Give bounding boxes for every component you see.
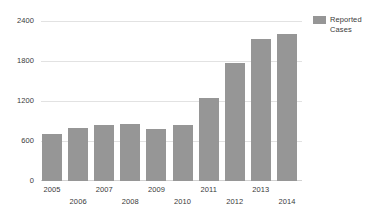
gridline-2400 bbox=[41, 21, 302, 22]
y-tick-label-1200: 1200 bbox=[0, 97, 34, 105]
bar-2009[interactable] bbox=[146, 129, 166, 181]
bar-2006[interactable] bbox=[68, 128, 88, 181]
x-tick-label-2014: 2014 bbox=[267, 198, 307, 206]
bar-2011[interactable] bbox=[199, 98, 219, 181]
legend-label-line-1: Reported bbox=[330, 15, 362, 24]
x-tick-label-2008: 2008 bbox=[110, 198, 150, 206]
x-tick-label-2011: 2011 bbox=[189, 186, 229, 194]
x-tick-label-2005: 2005 bbox=[32, 186, 72, 194]
legend-label-line-2: Cases bbox=[330, 25, 352, 34]
y-tick-label-600: 600 bbox=[0, 137, 34, 145]
bar-chart: 0600120018002400 20052006200720082009201… bbox=[0, 0, 377, 221]
y-tick-label-1800: 1800 bbox=[0, 57, 34, 65]
y-tick-label-2400: 2400 bbox=[0, 17, 34, 25]
legend: Reported Cases bbox=[313, 15, 362, 34]
plot-area bbox=[41, 21, 302, 181]
bar-2008[interactable] bbox=[120, 124, 140, 181]
bar-2012[interactable] bbox=[225, 63, 245, 181]
x-tick-label-2009: 2009 bbox=[136, 186, 176, 194]
bar-2010[interactable] bbox=[173, 125, 193, 181]
x-tick-label-2010: 2010 bbox=[163, 198, 203, 206]
bar-2005[interactable] bbox=[42, 134, 62, 181]
x-tick-label-2013: 2013 bbox=[241, 186, 281, 194]
x-tick-label-2007: 2007 bbox=[84, 186, 124, 194]
y-tick-label-0: 0 bbox=[0, 177, 34, 185]
x-tick-label-2012: 2012 bbox=[215, 198, 255, 206]
legend-swatch-reported-cases bbox=[313, 16, 326, 24]
bar-2007[interactable] bbox=[94, 125, 114, 181]
bar-2014[interactable] bbox=[277, 34, 297, 181]
legend-label-reported-cases: Reported Cases bbox=[330, 15, 362, 34]
x-tick-label-2006: 2006 bbox=[58, 198, 98, 206]
bar-2013[interactable] bbox=[251, 39, 271, 181]
